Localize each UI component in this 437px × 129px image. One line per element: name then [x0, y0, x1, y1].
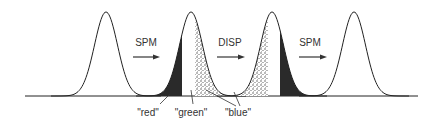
green-pointer-line: [191, 90, 193, 104]
red-component-fill: [140, 0, 182, 96]
operation-disp: DISP: [217, 37, 245, 60]
blue-component-fill: [195, 0, 245, 96]
pulse-4: [299, 12, 409, 96]
label-red: "red": [137, 107, 159, 118]
pulse-3: [217, 0, 327, 96]
blue-pointer-line: [206, 90, 236, 106]
spectral-pulse-diagram: SPM DISP SPM "red" "green" "blue": [0, 0, 437, 129]
label-green: "green": [175, 107, 208, 118]
pulse-1: [51, 12, 161, 96]
red-component-fill: [280, 0, 325, 96]
operation-label: SPM: [299, 37, 321, 48]
operation-spm-1: SPM: [133, 37, 160, 60]
operation-label: SPM: [135, 37, 157, 48]
label-blue: "blue": [225, 107, 251, 118]
pulse-2: [136, 0, 246, 96]
blue-component-fill: [220, 0, 268, 96]
operation-spm-2: SPM: [299, 37, 327, 60]
operation-label: DISP: [218, 37, 242, 48]
